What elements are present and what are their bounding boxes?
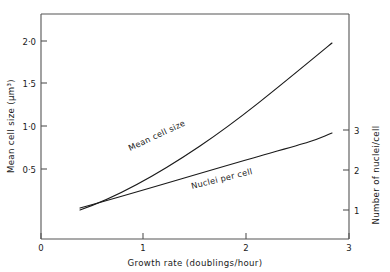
curve-label-mean-cell-size: Mean cell size: [127, 118, 187, 153]
y2-axis-title: Number of nuclei/cell: [371, 126, 381, 225]
left-axis-ticks: [41, 41, 47, 169]
growth-rate-chart: 2·0 1·5 1·0 0·5 3 2 1 0 1 2 3: [0, 0, 390, 272]
y2tick-label-2: 2: [354, 166, 359, 176]
plot-frame: [41, 14, 349, 239]
curve-label-nuclei-per-cell: Nuclei per cell: [190, 166, 253, 191]
x-axis-tick-labels: 0 1 2 3: [38, 243, 351, 253]
ytick-label-0-5: 0·5: [22, 165, 36, 175]
ytick-label-1-0: 1·0: [22, 122, 36, 132]
ytick-label-1-5: 1·5: [22, 79, 36, 89]
curve-nuclei-per-cell: [80, 133, 332, 208]
right-axis-ticks: [343, 130, 349, 210]
x-axis-title: Growth rate (doublings/hour): [128, 258, 263, 268]
xtick-label-2: 2: [243, 243, 248, 253]
left-axis-tick-labels: 2·0 1·5 1·0 0·5: [22, 37, 36, 175]
xtick-label-1: 1: [140, 243, 145, 253]
y2tick-label-3: 3: [354, 126, 359, 136]
x-axis-ticks: [41, 233, 349, 239]
right-axis-tick-labels: 3 2 1: [354, 126, 359, 216]
xtick-label-3: 3: [346, 243, 351, 253]
xtick-label-0: 0: [38, 243, 43, 253]
y2tick-label-1: 1: [354, 206, 359, 216]
y-axis-title: Mean cell size (µm³): [6, 79, 16, 173]
ytick-label-2-0: 2·0: [22, 37, 36, 47]
chart-figure: 2·0 1·5 1·0 0·5 3 2 1 0 1 2 3: [0, 0, 390, 272]
